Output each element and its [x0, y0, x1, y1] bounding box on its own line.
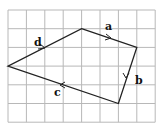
label-a: a — [105, 20, 112, 33]
label-c: c — [54, 86, 61, 99]
grid — [8, 10, 155, 122]
label-d: d — [34, 36, 42, 49]
label-b: b — [135, 74, 143, 87]
vector-quadrilateral-diagram: a b c d — [0, 0, 168, 133]
